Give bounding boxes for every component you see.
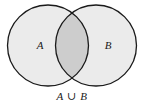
venn-diagram-svg: A B — [0, 0, 144, 92]
set-a-label: A — [36, 39, 44, 51]
venn-diagram-canvas: A B — [0, 0, 144, 92]
venn-figure: A B A ∪ B — [0, 0, 144, 108]
set-b-label: B — [105, 39, 112, 51]
figure-caption: A ∪ B — [0, 90, 144, 103]
